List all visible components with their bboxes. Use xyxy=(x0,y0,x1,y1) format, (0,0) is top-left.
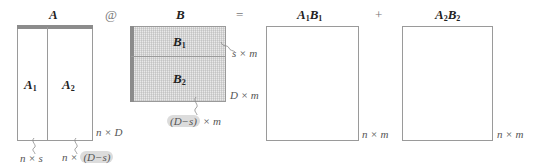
product-a2b2-dim: n × m xyxy=(497,128,523,140)
matmul-operator: @ xyxy=(105,7,117,23)
product-a1b1-title: A1B1 xyxy=(297,7,322,23)
highlight-d-minus-s: (D−s) xyxy=(80,151,113,163)
product-a1b1-dim: n × m xyxy=(362,128,388,140)
matrix-a2-label: A2 xyxy=(62,77,75,93)
product-a2b2-title: A2B2 xyxy=(435,7,460,23)
highlight-d-minus-s: (D−s) xyxy=(167,115,200,127)
matrix-b1-dim: s × m xyxy=(232,47,257,59)
matrix-b-divider xyxy=(131,56,225,57)
matrix-a-divider xyxy=(47,27,48,140)
matrix-a-row-bar xyxy=(17,25,93,29)
matrix-a1-label: A1 xyxy=(24,77,37,93)
product-a2b2-box xyxy=(402,26,493,141)
matrix-a-dim: n × D xyxy=(96,126,122,138)
matrix-b-box: B1 B2 xyxy=(130,26,226,102)
matrix-b1-label: B1 xyxy=(173,34,186,50)
matrix-b2-label: B2 xyxy=(173,71,186,87)
product-a1b1-box xyxy=(266,26,359,141)
matrix-a1-dim: n × s xyxy=(20,152,43,164)
matrix-b-col-bar xyxy=(130,26,134,102)
plus-operator: + xyxy=(375,7,382,23)
matrix-b-title: B xyxy=(176,7,185,23)
matrix-a2-dim: n × (D−s) xyxy=(62,151,113,163)
squiggle-b2-icon xyxy=(192,97,202,115)
matrix-b2-dim: (D−s) × m xyxy=(167,115,221,127)
matrix-a-box: A1 A2 xyxy=(17,26,93,141)
matrix-b-dim: D × m xyxy=(230,89,259,101)
equals-operator: = xyxy=(236,7,243,23)
matrix-a-title: A xyxy=(49,7,58,23)
